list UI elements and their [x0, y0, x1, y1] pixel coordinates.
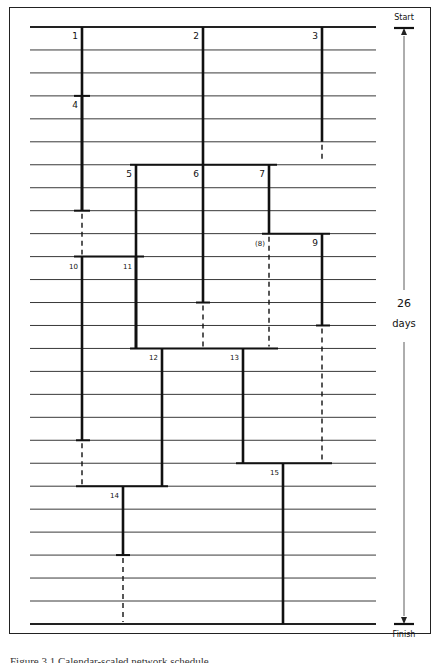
- finish-label: Finish: [393, 630, 416, 639]
- activity-label-2: 2: [193, 31, 199, 41]
- activity-label-5: 5: [126, 169, 132, 179]
- network-diagram: 1234567(8)9101112131415 Start Finish 26 …: [0, 0, 439, 663]
- activity-label-6: 6: [193, 169, 199, 179]
- activity-label-1: 1: [72, 31, 78, 41]
- activity-labels: 1234567(8)9101112131415: [69, 31, 318, 500]
- activity-label-8: (8): [255, 240, 265, 248]
- activity-label-4: 4: [72, 100, 78, 110]
- start-label: Start: [394, 13, 414, 22]
- activity-label-13: 13: [230, 354, 239, 362]
- duration-value: 26: [397, 297, 411, 310]
- activity-label-15: 15: [270, 469, 279, 477]
- duration-unit: days: [392, 318, 416, 329]
- activity-label-12: 12: [149, 354, 158, 362]
- activity-label-9: 9: [312, 238, 318, 248]
- activity-label-7: 7: [259, 169, 265, 179]
- activity-label-11: 11: [123, 263, 132, 271]
- activity-label-10: 10: [69, 263, 78, 271]
- figure-caption: Figure 3.1 Calendar-scaled network sched…: [10, 654, 209, 663]
- duration-scale: Start Finish 26 days: [392, 13, 418, 639]
- activity-label-14: 14: [110, 492, 119, 500]
- activity-label-3: 3: [312, 31, 318, 41]
